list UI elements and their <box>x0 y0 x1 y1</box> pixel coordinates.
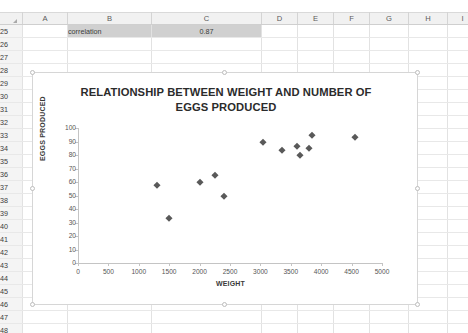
cell-i40[interactable] <box>448 220 468 233</box>
row-header-42[interactable]: 42 <box>0 246 23 259</box>
data-point[interactable] <box>154 181 160 187</box>
cell-i44[interactable] <box>448 272 468 285</box>
cell-d27[interactable] <box>262 51 298 64</box>
row-header-31[interactable]: 31 <box>0 103 23 116</box>
resize-handle-top-center[interactable] <box>222 70 227 75</box>
cell-d47[interactable] <box>262 311 298 324</box>
cell-f27[interactable] <box>334 51 370 64</box>
row-header-34[interactable]: 34 <box>0 142 23 155</box>
data-point[interactable] <box>351 134 357 140</box>
column-header-b[interactable]: B <box>68 13 152 25</box>
cell-i39[interactable] <box>448 207 468 220</box>
row-header-39[interactable]: 39 <box>0 207 23 220</box>
row-header-43[interactable]: 43 <box>0 259 23 272</box>
row-header-33[interactable]: 33 <box>0 129 23 142</box>
cell-g47[interactable] <box>370 311 409 324</box>
cell-a25[interactable] <box>23 25 68 38</box>
scatter-chart-object[interactable]: RELATIONSHIP BETWEEN WEIGHT AND NUMBER O… <box>32 72 418 305</box>
cell-e26[interactable] <box>298 38 334 51</box>
cell-g26[interactable] <box>370 38 409 51</box>
resize-handle-bottom-center[interactable] <box>222 302 227 307</box>
data-point[interactable] <box>309 131 315 137</box>
cell-g27[interactable] <box>370 51 409 64</box>
table-row[interactable]: 27 <box>0 51 468 64</box>
table-row[interactable]: 25 correlation 0.87 <box>0 25 468 38</box>
select-all-corner[interactable] <box>0 13 23 25</box>
cell-i46[interactable] <box>448 298 468 311</box>
column-header-f[interactable]: F <box>334 13 370 25</box>
row-header-38[interactable]: 38 <box>0 194 23 207</box>
row-header-44[interactable]: 44 <box>0 272 23 285</box>
column-header-g[interactable]: G <box>370 13 409 25</box>
row-header-48[interactable]: 48 <box>0 324 23 333</box>
row-header-36[interactable]: 36 <box>0 168 23 181</box>
row-header-47[interactable]: 47 <box>0 311 23 324</box>
column-header-a[interactable]: A <box>23 13 68 25</box>
cell-i34[interactable] <box>448 142 468 155</box>
row-header-37[interactable]: 37 <box>0 181 23 194</box>
row-header-29[interactable]: 29 <box>0 77 23 90</box>
cell-b47[interactable] <box>68 311 152 324</box>
cell-i41[interactable] <box>448 233 468 246</box>
cell-i45[interactable] <box>448 285 468 298</box>
row-header-46[interactable]: 46 <box>0 298 23 311</box>
column-header-e[interactable]: E <box>298 13 334 25</box>
cell-a48[interactable] <box>23 324 68 333</box>
cell-i33[interactable] <box>448 129 468 142</box>
data-point[interactable] <box>260 138 266 144</box>
column-header-i[interactable]: I <box>448 13 468 25</box>
cell-h47[interactable] <box>409 311 448 324</box>
data-point[interactable] <box>212 172 218 178</box>
cell-e48[interactable] <box>298 324 334 333</box>
data-point[interactable] <box>166 215 172 221</box>
cell-i43[interactable] <box>448 259 468 272</box>
resize-handle-bottom-left[interactable] <box>30 302 35 307</box>
cell-c47[interactable] <box>152 311 262 324</box>
cell-i35[interactable] <box>448 155 468 168</box>
row-header-30[interactable]: 30 <box>0 90 23 103</box>
resize-handle-middle-left[interactable] <box>30 186 35 191</box>
cell-c27[interactable] <box>152 51 262 64</box>
cell-c48[interactable] <box>152 324 262 333</box>
cell-a27[interactable] <box>23 51 68 64</box>
cell-e27[interactable] <box>298 51 334 64</box>
cell-b25[interactable]: correlation <box>68 25 152 38</box>
cell-g25[interactable] <box>370 25 409 38</box>
cell-i30[interactable] <box>448 90 468 103</box>
cell-a26[interactable] <box>23 38 68 51</box>
row-header-25[interactable]: 25 <box>0 25 23 38</box>
resize-handle-top-left[interactable] <box>30 70 35 75</box>
cell-h48[interactable] <box>409 324 448 333</box>
column-header-d[interactable]: D <box>262 13 298 25</box>
cell-i36[interactable] <box>448 168 468 181</box>
table-row[interactable]: 48 <box>0 324 468 333</box>
row-header-40[interactable]: 40 <box>0 220 23 233</box>
cell-i26[interactable] <box>448 38 468 51</box>
cell-b27[interactable] <box>68 51 152 64</box>
column-header-h[interactable]: H <box>409 13 448 25</box>
cell-g48[interactable] <box>370 324 409 333</box>
cell-c25[interactable]: 0.87 <box>152 25 262 38</box>
cell-i48[interactable] <box>448 324 468 333</box>
row-header-32[interactable]: 32 <box>0 116 23 129</box>
table-row[interactable]: 26 <box>0 38 468 51</box>
row-header-35[interactable]: 35 <box>0 155 23 168</box>
row-header-28[interactable]: 28 <box>0 64 23 77</box>
cell-i47[interactable] <box>448 311 468 324</box>
cell-i32[interactable] <box>448 116 468 129</box>
cell-f25[interactable] <box>334 25 370 38</box>
cell-i37[interactable] <box>448 181 468 194</box>
cell-d26[interactable] <box>262 38 298 51</box>
cell-h26[interactable] <box>409 38 448 51</box>
cell-b48[interactable] <box>68 324 152 333</box>
row-header-45[interactable]: 45 <box>0 285 23 298</box>
data-point[interactable] <box>196 179 202 185</box>
column-header-c[interactable]: C <box>152 13 262 25</box>
data-point[interactable] <box>306 145 312 151</box>
data-point[interactable] <box>221 192 227 198</box>
cell-d48[interactable] <box>262 324 298 333</box>
row-header-41[interactable]: 41 <box>0 233 23 246</box>
cell-h27[interactable] <box>409 51 448 64</box>
cell-c26[interactable] <box>152 38 262 51</box>
resize-handle-top-right[interactable] <box>415 70 420 75</box>
